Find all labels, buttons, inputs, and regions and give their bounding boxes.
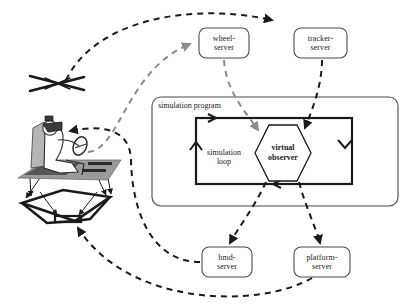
flow-wheelserver-to-observer (224, 60, 258, 130)
platform-server-box[interactable] (294, 247, 350, 277)
simulation-loop-label-line2: loop (196, 157, 252, 167)
virtual-observer-label-line2: observer (255, 153, 311, 163)
hmd-server-box[interactable] (202, 247, 252, 277)
flow-wheel-to-wheelserver (88, 44, 190, 152)
optical-tracker-cross-icon (30, 76, 84, 91)
virtual-observer-label-line1: virtual (255, 143, 311, 153)
flow-observer-to-platformserver (299, 182, 320, 243)
motion-platform-base (22, 190, 110, 223)
wheel-server-box[interactable] (199, 28, 249, 58)
simulation-program-label: simulation program (158, 101, 221, 111)
vr-driver-illustration (18, 116, 121, 223)
flow-arrows-gray (88, 44, 258, 152)
steering-wheel-icon (70, 135, 89, 157)
tracker-server-box[interactable] (294, 28, 347, 58)
diagram-canvas: wheel- server tracker- server hmd- serve… (0, 0, 409, 306)
flow-observer-to-hmdserver (230, 182, 266, 243)
